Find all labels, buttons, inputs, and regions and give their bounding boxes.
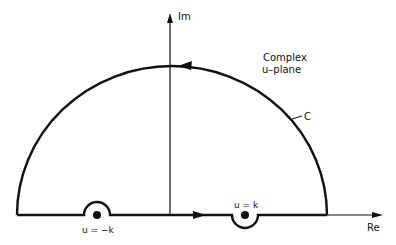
contour-label: C (304, 111, 311, 122)
real-axis (327, 212, 383, 218)
re-axis-label: Re (367, 222, 380, 233)
contour-c (17, 66, 327, 228)
contour-arrow-right-icon (193, 211, 206, 219)
plane-title-line2: u–plane (262, 64, 301, 75)
imaginary-axis (167, 13, 173, 215)
arrow-right-icon (372, 212, 383, 218)
pole-plus-k-label: u = k (234, 200, 258, 211)
plane-title-line1: Complex (263, 52, 307, 63)
im-axis-label: Im (178, 11, 191, 22)
pole-minus-k-dot (93, 211, 101, 219)
pole-minus-k-label: u = −k (82, 225, 114, 236)
contour-diagram (0, 0, 396, 245)
pole-plus-k-dot (241, 211, 249, 219)
c-leader-line (292, 116, 302, 119)
arrow-up-icon (167, 13, 173, 23)
contour-arrow-left-icon (178, 61, 192, 70)
